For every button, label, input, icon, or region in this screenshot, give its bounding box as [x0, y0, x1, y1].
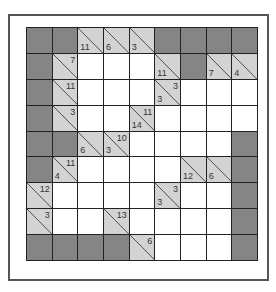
clue-cell: 1411: [130, 106, 155, 131]
across-clue: 13: [117, 211, 127, 220]
blocked-cell: [232, 157, 257, 182]
answer-cell[interactable]: [78, 183, 103, 208]
answer-cell[interactable]: [104, 106, 129, 131]
answer-cell[interactable]: [207, 80, 232, 105]
clue-cell: 12: [27, 183, 52, 208]
blocked-cell: [181, 28, 206, 53]
clue-cell: 3: [53, 106, 78, 131]
answer-cell[interactable]: [207, 106, 232, 131]
down-clue: 6: [106, 43, 111, 52]
answer-cell[interactable]: [130, 132, 155, 157]
down-clue: 12: [183, 172, 193, 181]
answer-cell[interactable]: [181, 183, 206, 208]
answer-cell[interactable]: [130, 209, 155, 234]
answer-cell[interactable]: [155, 132, 180, 157]
answer-cell[interactable]: [207, 209, 232, 234]
across-clue: 7: [70, 56, 75, 65]
clue-cell: 6: [130, 235, 155, 260]
blocked-cell: [78, 235, 103, 260]
blocked-cell: [155, 28, 180, 53]
down-clue: 4: [234, 69, 239, 78]
clue-cell: 6: [207, 157, 232, 182]
answer-cell[interactable]: [130, 80, 155, 105]
across-clue: 11: [143, 108, 152, 117]
blocked-cell: [27, 235, 52, 260]
blocked-cell: [104, 235, 129, 260]
across-clue: 11: [66, 159, 75, 168]
down-clue: 3: [106, 146, 111, 155]
clue-cell: 12: [181, 157, 206, 182]
answer-cell[interactable]: [155, 209, 180, 234]
answer-cell[interactable]: [130, 183, 155, 208]
blocked-cell: [207, 28, 232, 53]
answer-cell[interactable]: [207, 183, 232, 208]
answer-cell[interactable]: [181, 132, 206, 157]
clue-cell: 11: [78, 28, 103, 53]
blocked-cell: [27, 80, 52, 105]
answer-cell[interactable]: [155, 157, 180, 182]
clue-cell: 310: [104, 132, 129, 157]
answer-cell[interactable]: [53, 209, 78, 234]
clue-cell: 411: [53, 157, 78, 182]
clue-cell: 7: [53, 54, 78, 79]
kakuro-grid: 116371174113331411631041112612333136: [26, 27, 258, 261]
blocked-cell: [181, 54, 206, 79]
answer-cell[interactable]: [181, 106, 206, 131]
answer-cell[interactable]: [181, 235, 206, 260]
answer-cell[interactable]: [104, 54, 129, 79]
clue-cell: 11: [155, 54, 180, 79]
down-clue: 6: [209, 172, 214, 181]
blocked-cell: [232, 183, 257, 208]
answer-cell[interactable]: [232, 80, 257, 105]
blocked-cell: [53, 28, 78, 53]
clue-cell: 3: [130, 28, 155, 53]
answer-cell[interactable]: [207, 235, 232, 260]
answer-cell[interactable]: [232, 106, 257, 131]
down-clue: 3: [157, 95, 162, 104]
blocked-cell: [53, 132, 78, 157]
answer-cell[interactable]: [181, 209, 206, 234]
blocked-cell: [53, 235, 78, 260]
answer-cell[interactable]: [155, 106, 180, 131]
answer-cell[interactable]: [130, 54, 155, 79]
across-clue: 3: [173, 82, 178, 91]
across-clue: 12: [40, 185, 50, 194]
down-clue: 6: [80, 146, 85, 155]
across-clue: 6: [147, 237, 152, 246]
down-clue: 11: [157, 69, 166, 78]
answer-cell[interactable]: [78, 54, 103, 79]
answer-cell[interactable]: [104, 157, 129, 182]
answer-cell[interactable]: [104, 80, 129, 105]
down-clue: 4: [55, 172, 60, 181]
blocked-cell: [232, 235, 257, 260]
answer-cell[interactable]: [207, 132, 232, 157]
clue-cell: 11: [53, 80, 78, 105]
answer-cell[interactable]: [78, 106, 103, 131]
blocked-cell: [27, 106, 52, 131]
blocked-cell: [27, 28, 52, 53]
across-clue: 11: [66, 82, 75, 91]
clue-cell: 33: [155, 80, 180, 105]
clue-cell: 33: [155, 183, 180, 208]
answer-cell[interactable]: [78, 157, 103, 182]
blocked-cell: [232, 132, 257, 157]
clue-cell: 6: [104, 28, 129, 53]
answer-cell[interactable]: [130, 157, 155, 182]
clue-cell: 7: [207, 54, 232, 79]
blocked-cell: [27, 132, 52, 157]
across-clue: 3: [45, 211, 50, 220]
down-clue: 3: [132, 43, 137, 52]
clue-cell: 3: [27, 209, 52, 234]
down-clue: 14: [132, 121, 142, 130]
clue-cell: 4: [232, 54, 257, 79]
answer-cell[interactable]: [181, 80, 206, 105]
answer-cell[interactable]: [155, 235, 180, 260]
blocked-cell: [27, 157, 52, 182]
down-clue: 3: [157, 198, 162, 207]
answer-cell[interactable]: [53, 183, 78, 208]
answer-cell[interactable]: [104, 183, 129, 208]
blocked-cell: [232, 209, 257, 234]
answer-cell[interactable]: [78, 80, 103, 105]
answer-cell[interactable]: [78, 209, 103, 234]
down-clue: 7: [209, 69, 214, 78]
